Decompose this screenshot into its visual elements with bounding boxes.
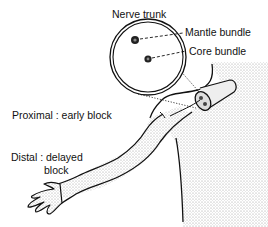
label-distal-line2: block — [44, 164, 69, 176]
label-nerve-trunk: Nerve trunk — [112, 8, 167, 20]
mantle-bundle-dot — [131, 36, 139, 44]
nerve-block-diagram: Nerve trunk Mantle bundle Core bundle Pr… — [0, 0, 268, 227]
label-core-bundle: Core bundle — [189, 45, 246, 57]
label-mantle-bundle: Mantle bundle — [185, 26, 251, 38]
label-proximal: Proximal : early block — [12, 109, 113, 121]
label-distal-line1: Distal : delayed — [11, 151, 83, 163]
core-bundle-dot — [144, 55, 151, 62]
hand — [28, 183, 62, 215]
nerve-trunk-cross-section — [110, 19, 186, 95]
